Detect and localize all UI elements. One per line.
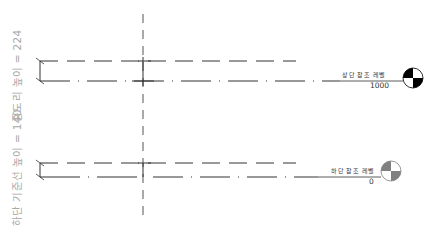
base-line-height-label[interactable]: 하단 기준선 높이 = 140	[9, 109, 24, 226]
top-level-marker-icon[interactable]	[403, 68, 423, 88]
purlin-height-label[interactable]: 중도리 높이 = 224	[9, 30, 24, 122]
bottom-level-name[interactable]: 하단 참조 레벨	[331, 166, 375, 175]
top-level-elevation[interactable]: 1000	[370, 81, 389, 90]
elevation-diagram	[0, 0, 435, 233]
bottom-level-elevation[interactable]: 0	[369, 177, 374, 186]
bottom-dimension-bracket[interactable]	[36, 160, 318, 180]
bottom-level-quadrant	[381, 161, 391, 171]
bottom-level-marker-icon[interactable]	[381, 161, 401, 181]
top-level-quadrant	[403, 68, 413, 78]
bottom-level-quadrant	[391, 171, 401, 181]
top-dimension-bracket[interactable]	[36, 57, 340, 86]
top-level-name[interactable]: 상단 참조 레벨	[342, 70, 386, 79]
top-level-quadrant	[413, 78, 423, 88]
